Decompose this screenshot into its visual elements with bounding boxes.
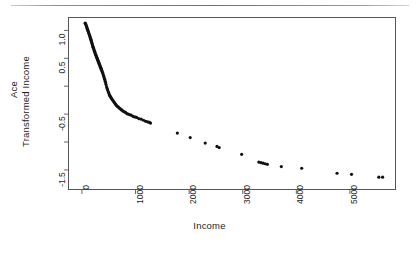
y-tick-label: -0.5: [58, 114, 67, 134]
x-tick-label: 4000: [296, 185, 305, 209]
x-tick-label: 1000: [136, 185, 145, 209]
y-tick-label: -1.5: [58, 169, 67, 189]
y-tick-label: 0.5: [58, 58, 67, 78]
y-axis-title-line1: Ace: [8, 40, 19, 140]
x-axis-tick-marks: [82, 190, 350, 194]
figure-canvas: 1.00.5-0.5-1.5 010002000300040005000 Ace…: [0, 0, 419, 255]
x-tick-label: 3000: [243, 185, 252, 209]
y-axis-title-line2: Transformed Income: [20, 32, 31, 172]
x-tick-label: 5000: [350, 185, 359, 209]
x-tick-label: 2000: [189, 185, 198, 209]
y-tick-label: 1.0: [58, 30, 67, 50]
x-tick-label: 0: [82, 185, 91, 209]
page-top-rule: [11, 5, 409, 6]
plot-frame: [68, 17, 396, 190]
x-axis-title: Income: [0, 220, 419, 231]
